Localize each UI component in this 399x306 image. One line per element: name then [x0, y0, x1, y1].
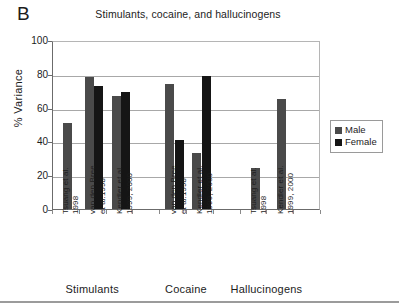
x-tick-mark-0	[52, 210, 53, 214]
study-label-0: Tsuang et al. 1998	[61, 167, 80, 214]
figure-bottom-rule	[0, 301, 399, 303]
y-axis-tick-labels: 100806040200	[14, 41, 48, 210]
study-label-4: Kendler et al. 1999, 2000	[195, 165, 214, 214]
panel-letter: B	[17, 4, 30, 23]
study-label-1: van den Bree et al.1998	[88, 165, 107, 214]
legend-label-female: Female	[345, 137, 377, 147]
y-tick-label-0: 0	[18, 205, 48, 215]
y-tick-label-80: 80	[18, 70, 48, 80]
chart-title: Stimulants, cocaine, and hallucinogens	[60, 8, 316, 20]
y-tick-mark-40	[48, 142, 52, 143]
legend-swatch-male-icon	[335, 127, 342, 134]
y-tick-label-20: 20	[18, 171, 48, 181]
x-tick-mark-sep-6	[213, 210, 214, 214]
x-tick-mark-sep-10	[320, 210, 321, 214]
x-tick-mark-3	[159, 210, 160, 214]
figure-panel-b: B Stimulants, cocaine, and hallucinogens…	[0, 0, 399, 306]
study-label-3: van den Bree et al.1998	[169, 165, 188, 214]
study-label-6: Kendler et al. 1999, 2000	[276, 165, 295, 214]
legend-swatch-female-icon	[335, 139, 342, 146]
legend-item-female[interactable]: Female	[335, 136, 377, 148]
legend-item-male[interactable]: Male	[335, 124, 377, 136]
y-tick-mark-60	[48, 109, 52, 110]
y-tick-mark-80	[48, 75, 52, 76]
x-tick-mark-sep-3	[132, 210, 133, 214]
y-tick-mark-20	[48, 176, 52, 177]
y-tick-label-60: 60	[18, 104, 48, 114]
group-label-hallucinogens: Hallucinogens	[206, 283, 326, 295]
legend-label-male: Male	[345, 125, 366, 135]
x-tick-mark-1	[79, 210, 80, 214]
x-tick-mark-sep-9	[293, 210, 294, 214]
x-tick-mark-6	[266, 210, 267, 214]
y-tick-mark-100	[48, 41, 52, 42]
y-tick-label-40: 40	[18, 137, 48, 147]
y-tick-label-100: 100	[18, 36, 48, 46]
study-label-5: Tsuang et al. 1998	[249, 167, 268, 214]
chart-legend: MaleFemale	[330, 120, 383, 153]
study-label-2: Kendler et al. 1999, 2000	[115, 165, 134, 214]
x-tick-mark-2	[106, 210, 107, 214]
x-tick-mark-5	[240, 210, 241, 214]
x-tick-mark-4	[186, 210, 187, 214]
